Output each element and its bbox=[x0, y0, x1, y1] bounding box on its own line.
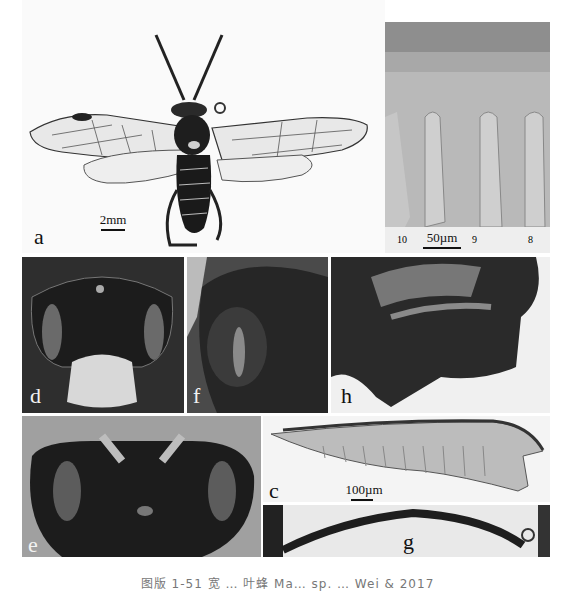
scale-label-a: 2mm bbox=[100, 212, 127, 227]
panel-g-antenna: g bbox=[263, 505, 550, 557]
mesopleuron-image bbox=[187, 257, 328, 413]
head-dorsal-image bbox=[22, 416, 261, 557]
lancet-image bbox=[263, 416, 550, 502]
abdomen-apex-image bbox=[331, 257, 550, 413]
sawteeth-micrograph bbox=[385, 22, 550, 253]
panel-label-h: h bbox=[341, 385, 352, 407]
scale-bar-b: 50µm bbox=[421, 230, 463, 249]
panel-d-head-frontal: d bbox=[22, 257, 184, 413]
panel-label-c: c bbox=[269, 480, 279, 502]
panel-label-a: a bbox=[34, 226, 44, 248]
scale-label-b: 50µm bbox=[427, 230, 458, 245]
panel-label-f: f bbox=[193, 385, 200, 407]
head-frontal-image bbox=[22, 257, 184, 413]
panel-label-d: d bbox=[30, 385, 41, 407]
panel-f-mesopleuron: f bbox=[187, 257, 328, 413]
tooth-number-10: 10 bbox=[397, 234, 407, 245]
figure-caption: 图版 1-51 宽 … 叶蜂 Ma… sp. … Wei & 2017 bbox=[0, 574, 575, 591]
panel-c-lancet: 100µm c bbox=[263, 416, 550, 502]
panel-h-abdomen-apex: h bbox=[331, 257, 550, 413]
panel-label-e: e bbox=[28, 534, 38, 556]
tooth-number-8: 8 bbox=[528, 234, 533, 245]
tooth-number-9: 9 bbox=[472, 234, 477, 245]
panel-b-sawteeth: 10 50µm 9 8 b bbox=[385, 22, 550, 253]
scale-bar-c: 100µm bbox=[343, 482, 385, 501]
panel-label-g: g bbox=[403, 531, 414, 553]
sawfly-habitus-image bbox=[22, 0, 385, 253]
panel-a-habitus: 2mm a bbox=[22, 0, 385, 253]
scale-bar-a: 2mm bbox=[98, 212, 128, 231]
scale-label-c: 100µm bbox=[345, 482, 382, 497]
panel-e-head-dorsal: e bbox=[22, 416, 261, 557]
